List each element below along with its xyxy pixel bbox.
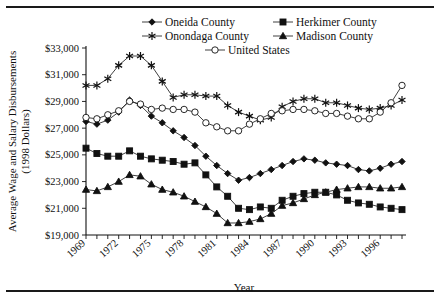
x-tick-label: 1996 — [359, 237, 382, 259]
x-axis-title: Year — [234, 281, 255, 293]
data-point-marker — [268, 166, 274, 172]
data-point-marker — [312, 157, 318, 163]
data-point-marker — [170, 159, 176, 165]
x-tick-label: 1981 — [195, 237, 218, 259]
data-point-marker — [105, 112, 111, 118]
data-point-marker — [257, 116, 263, 122]
data-point-marker — [246, 121, 252, 127]
x-tick-label: 1984 — [228, 237, 252, 260]
data-point-marker — [235, 108, 242, 116]
legend-item-united-states[interactable]: United States — [205, 44, 290, 56]
data-point-marker — [203, 172, 209, 178]
data-point-marker — [399, 158, 405, 164]
legend-item-madison-county[interactable]: Madison County — [273, 30, 373, 43]
data-point-marker — [83, 114, 89, 120]
data-point-marker — [301, 156, 307, 162]
data-point-marker — [333, 161, 339, 167]
data-point-marker — [224, 101, 231, 109]
legend-label: United States — [228, 44, 290, 56]
data-point-marker — [344, 113, 350, 119]
series-line — [86, 100, 402, 180]
data-point-marker — [82, 186, 89, 192]
data-point-marker — [181, 106, 187, 112]
data-point-marker — [127, 148, 133, 154]
data-point-marker — [235, 177, 241, 183]
data-point-marker — [290, 158, 296, 164]
figure-container: $33,000$31,000$29,000$27,000$25,000$23,0… — [0, 0, 440, 296]
data-point-marker — [344, 101, 351, 109]
data-point-marker — [355, 200, 361, 206]
data-point-marker — [149, 19, 155, 25]
y-axis-title-line2: (1998 Dollars) — [19, 109, 32, 174]
series-onondaga-county — [83, 52, 406, 124]
legend-label: Madison County — [296, 30, 373, 43]
data-point-marker — [224, 128, 230, 134]
x-tick-label: 1987 — [261, 237, 284, 259]
data-point-marker — [214, 124, 220, 130]
data-point-marker — [398, 183, 405, 189]
series-madison-county — [82, 171, 405, 225]
data-point-marker — [399, 82, 405, 88]
data-point-marker — [246, 207, 252, 213]
data-point-marker — [257, 204, 263, 210]
data-point-marker — [170, 128, 176, 134]
data-point-marker — [115, 178, 122, 184]
data-point-marker — [159, 120, 165, 126]
data-point-marker — [279, 108, 285, 114]
data-point-marker — [366, 168, 372, 174]
y-tick-label: $25,000 — [45, 149, 79, 160]
data-point-marker — [105, 153, 111, 159]
data-point-marker — [116, 153, 122, 159]
data-point-marker — [301, 106, 307, 112]
y-axis-title-line1: Average Wage and Salary Disbursements — [6, 51, 18, 232]
data-point-marker — [202, 203, 209, 209]
data-point-marker — [257, 170, 263, 176]
data-point-marker — [333, 110, 339, 116]
data-point-marker — [377, 109, 383, 115]
data-point-marker — [312, 108, 318, 114]
x-tick-label: 1993 — [326, 237, 349, 259]
data-point-marker — [148, 106, 154, 112]
data-point-marker — [94, 116, 100, 122]
data-point-marker — [399, 207, 405, 213]
data-point-marker — [137, 153, 143, 159]
legend-item-oneida-county[interactable]: Oneida County — [142, 16, 235, 29]
legend-label: Oneida County — [165, 16, 235, 29]
data-point-marker — [214, 184, 220, 190]
data-point-marker — [344, 162, 350, 168]
legend-label: Herkimer County — [296, 16, 377, 29]
data-point-marker — [290, 193, 296, 199]
y-tick-label: $19,000 — [45, 230, 79, 241]
data-point-marker — [83, 145, 89, 151]
data-point-marker — [257, 215, 264, 221]
data-point-marker — [279, 162, 285, 168]
data-point-marker — [170, 106, 176, 112]
data-point-marker — [159, 157, 165, 163]
data-point-marker — [377, 204, 383, 210]
data-point-marker — [126, 98, 132, 104]
legend-label: Onondaga County — [165, 30, 249, 43]
data-point-marker — [115, 108, 121, 114]
data-point-marker — [388, 100, 394, 106]
y-tick-label: $33,000 — [45, 43, 79, 54]
legend-item-herkimer-county[interactable]: Herkimer County — [273, 16, 377, 29]
data-point-marker — [180, 193, 187, 199]
data-point-marker — [290, 97, 297, 105]
data-point-marker — [268, 110, 274, 116]
data-point-marker — [137, 101, 143, 107]
data-point-marker — [377, 165, 383, 171]
legend-item-onondaga-county[interactable]: Onondaga County — [142, 30, 249, 43]
data-point-marker — [181, 161, 187, 167]
y-tick-label: $27,000 — [45, 123, 79, 134]
data-point-marker — [192, 109, 198, 115]
data-point-marker — [246, 112, 253, 120]
data-point-marker — [323, 110, 329, 116]
x-tick-label: 1990 — [293, 237, 316, 259]
data-point-marker — [334, 192, 340, 198]
data-point-marker — [246, 174, 252, 180]
data-point-marker — [213, 210, 220, 216]
data-point-marker — [366, 201, 372, 207]
data-point-marker — [355, 116, 361, 122]
data-point-marker — [388, 161, 394, 167]
data-point-marker — [236, 205, 242, 211]
